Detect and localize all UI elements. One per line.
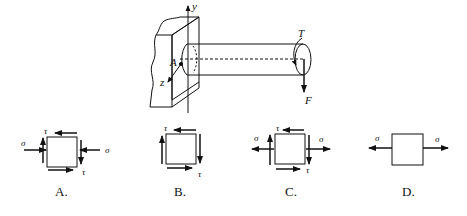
- option-b-tau-top: τ: [164, 123, 168, 133]
- option-c-tau-bottom: τ: [306, 165, 310, 175]
- option-a-label: A.: [55, 184, 68, 199]
- option-d-sigma-left: σ: [375, 133, 380, 143]
- shaft: [180, 44, 311, 75]
- option-d-label: D.: [402, 184, 415, 199]
- option-c-tau-top: τ: [276, 123, 280, 133]
- mechanics-figure: y z A T F τ τ σ σ A. τ τ B.: [0, 0, 467, 216]
- point-a-label: A: [169, 56, 177, 68]
- force-label: F: [304, 94, 312, 106]
- option-a-element: [24, 133, 100, 170]
- option-a-tau-bottom: τ: [82, 167, 86, 177]
- option-a-tau-top: τ: [44, 126, 48, 136]
- torque-arrow: [294, 38, 302, 65]
- option-b-element: [162, 130, 200, 168]
- z-axis-label: z: [159, 76, 165, 88]
- y-axis-label: y: [191, 0, 197, 12]
- option-c-sigma-right: σ: [319, 134, 324, 144]
- option-c-sigma-left: σ: [254, 133, 259, 143]
- option-a-sigma-left: σ: [21, 138, 26, 148]
- option-d-sigma-right: σ: [435, 134, 440, 144]
- option-b-label: B.: [174, 184, 186, 199]
- torque-label: T: [298, 27, 305, 39]
- option-a-sigma-right: σ: [105, 145, 110, 155]
- option-b-tau-bottom: τ: [198, 169, 202, 179]
- option-c-label: C.: [285, 184, 297, 199]
